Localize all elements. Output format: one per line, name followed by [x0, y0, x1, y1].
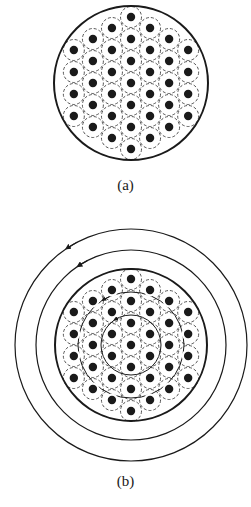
vortex-core-dot [70, 68, 78, 76]
vortex-core-dot [127, 145, 135, 153]
vortex-core-dot [127, 57, 135, 65]
vortex-core-dot [127, 13, 135, 21]
vortex-core-dot [70, 308, 78, 316]
vortex-core-dot [146, 286, 154, 294]
vortex-core-dot [127, 79, 135, 87]
vortex-core-dot [89, 363, 97, 371]
vortex-core-dot [70, 330, 78, 338]
vortex-core-dot [70, 352, 78, 360]
vortex-core-dot [108, 352, 116, 360]
vortex-core-dot [184, 308, 192, 316]
vortex-core-dot [108, 374, 116, 382]
vortex-core-dot [165, 363, 173, 371]
vortex-core-dot [184, 330, 192, 338]
vortex-core-dot [108, 286, 116, 294]
panel-a-diagram [54, 6, 208, 160]
vortex-core-dot [146, 396, 154, 404]
vortex-core-dot [146, 90, 154, 98]
vortex-core-dot [89, 79, 97, 87]
vortex-core-dot [89, 35, 97, 43]
vortex-core-dot [165, 341, 173, 349]
vortex-core-dot [70, 374, 78, 382]
arrow-icon [68, 242, 78, 248]
vortex-core-dot [165, 297, 173, 305]
vortex-core-dot [89, 57, 97, 65]
vortex-core-dot [108, 112, 116, 120]
vortex-core-dot [165, 101, 173, 109]
vortex-core-dot [165, 35, 173, 43]
vortex-core-dot [127, 407, 135, 415]
vortex-core-dot [165, 385, 173, 393]
vortex-core-dot [127, 319, 135, 327]
vortex-core-dot [146, 352, 154, 360]
vortex-core-dot [70, 90, 78, 98]
vortex-core-dot [127, 275, 135, 283]
vortex-core-dot [127, 35, 135, 43]
vortex-core-dot [146, 68, 154, 76]
vortex-core-dot [146, 24, 154, 32]
vortex-core-dot [108, 330, 116, 338]
panel-b-label: (b) [0, 473, 251, 490]
vortex-core-dot [127, 385, 135, 393]
vortex-core-dot [184, 90, 192, 98]
vortex-core-dot [165, 123, 173, 131]
vortex-core-dot [89, 297, 97, 305]
vortex-core-dot [108, 396, 116, 404]
vortex-core-dot [108, 308, 116, 316]
vortex-core-dot [146, 374, 154, 382]
vortex-core-dot [70, 112, 78, 120]
vortex-core-dot [108, 134, 116, 142]
vortex-core-dot [108, 90, 116, 98]
vortex-core-dot [184, 112, 192, 120]
vortex-core-dot [89, 101, 97, 109]
vortex-core-dot [89, 123, 97, 131]
vortex-core-dot [184, 352, 192, 360]
vortex-core-dot [146, 46, 154, 54]
vortex-core-dot [108, 68, 116, 76]
vortex-core-dot [89, 319, 97, 327]
vortex-core-dot [184, 46, 192, 54]
vortex-core-dot [146, 330, 154, 338]
vortex-core-dot [165, 79, 173, 87]
vortex-core-dot [184, 68, 192, 76]
vortex-core-dot [165, 319, 173, 327]
flux-tube-diagram [0, 0, 251, 507]
panel-a-label: (a) [0, 177, 251, 194]
vortex-core-dot [127, 123, 135, 131]
vortex-core-dot [146, 134, 154, 142]
vortex-core-dot [184, 374, 192, 382]
panel-b-diagram [15, 229, 247, 461]
vortex-core-dot [89, 341, 97, 349]
vortex-core-dot [127, 101, 135, 109]
vortex-core-dot [89, 385, 97, 393]
vortex-core-dot [108, 24, 116, 32]
vortex-core-dot [70, 46, 78, 54]
arrow-icon [115, 318, 118, 320]
vortex-core-dot [108, 46, 116, 54]
vortex-core-dot [127, 341, 135, 349]
vortex-core-dot [127, 363, 135, 371]
vortex-core-dot [146, 308, 154, 316]
vortex-core-dot [146, 112, 154, 120]
vortex-core-dot [165, 57, 173, 65]
arrow-icon [79, 261, 87, 266]
vortex-core-dot [127, 297, 135, 305]
